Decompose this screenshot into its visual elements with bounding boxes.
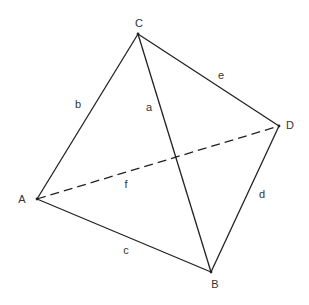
tetrahedron-diagram: abcdefABCD bbox=[0, 0, 309, 305]
edge-label-c: c bbox=[123, 244, 129, 256]
vertex-A bbox=[36, 198, 39, 201]
vertex-label-D: D bbox=[286, 119, 294, 131]
edge-c bbox=[37, 199, 211, 272]
edge-a bbox=[138, 34, 211, 272]
edge-label-f: f bbox=[124, 178, 128, 190]
vertex-label-C: C bbox=[135, 17, 143, 29]
edge-f bbox=[37, 126, 279, 199]
vertex-C bbox=[137, 33, 140, 36]
vertex-label-A: A bbox=[18, 193, 26, 205]
vertex-B bbox=[210, 271, 213, 274]
edge-b bbox=[37, 34, 138, 199]
edge-label-b: b bbox=[75, 98, 81, 110]
edge-label-a: a bbox=[146, 101, 153, 113]
edge-e bbox=[138, 34, 279, 126]
vertex-label-B: B bbox=[211, 278, 218, 290]
edge-d bbox=[211, 126, 279, 272]
vertex-D bbox=[278, 125, 281, 128]
edge-label-e: e bbox=[218, 69, 224, 81]
edge-label-d: d bbox=[259, 188, 265, 200]
